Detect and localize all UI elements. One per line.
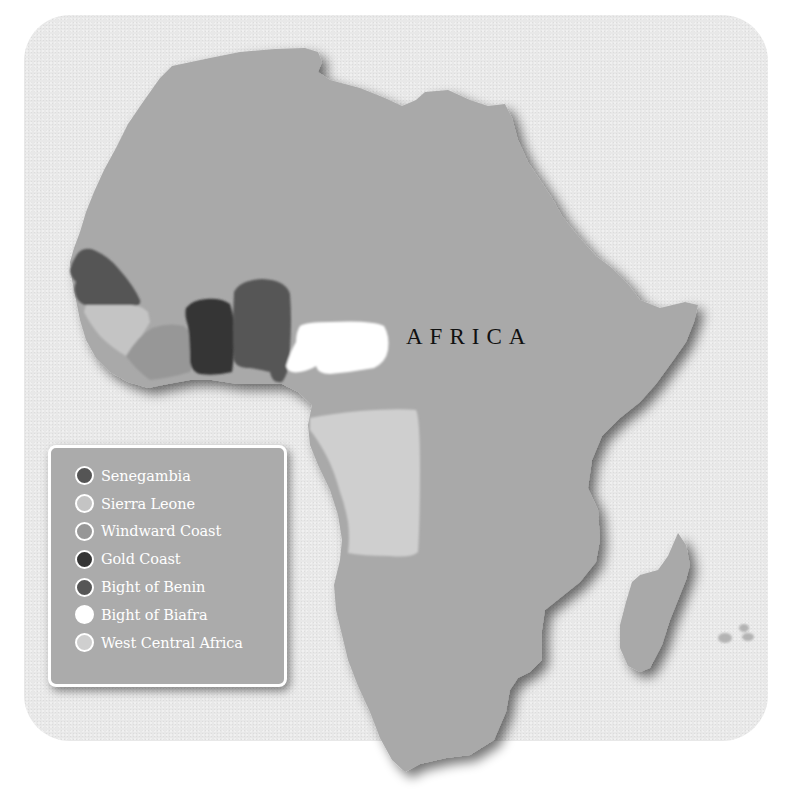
swatch-circle-icon (75, 578, 94, 597)
legend-label: Windward Coast (101, 523, 221, 539)
legend-item-bight-of-biafra: Bight of Biafra (75, 601, 284, 629)
swatch-circle-icon (75, 522, 94, 541)
legend-item-gold-coast: Gold Coast (75, 545, 284, 573)
legend-item-west-central-africa: West Central Africa (75, 629, 284, 657)
legend-label: Bight of Benin (101, 579, 205, 595)
swatch-circle-icon (75, 550, 94, 569)
legend-item-senegambia: Senegambia (75, 462, 284, 490)
legend-label: Sierra Leone (101, 496, 195, 512)
region-gold-coast (185, 299, 234, 375)
swatch-circle-icon (75, 466, 94, 485)
legend-item-windward-coast: Windward Coast (75, 518, 284, 546)
continent-label: AFRICA (406, 324, 532, 350)
legend-item-sierra-leone: Sierra Leone (75, 490, 284, 518)
legend-label: West Central Africa (101, 635, 243, 651)
legend-label: Bight of Biafra (101, 607, 207, 623)
swatch-circle-icon (75, 605, 94, 624)
legend-list: Senegambia Sierra Leone Windward Coast G… (51, 448, 284, 657)
madagascar-island (620, 533, 690, 672)
legend: Senegambia Sierra Leone Windward Coast G… (48, 445, 287, 687)
legend-label: Gold Coast (101, 551, 181, 567)
mascarene-islands (718, 624, 754, 643)
region-bight-of-benin (233, 279, 291, 382)
legend-item-bight-of-benin: Bight of Benin (75, 573, 284, 601)
region-west-central-africa (310, 409, 420, 556)
swatch-circle-icon (75, 494, 94, 513)
legend-label: Senegambia (101, 468, 191, 484)
swatch-circle-icon (75, 633, 94, 652)
region-bight-of-biafra (286, 322, 389, 375)
